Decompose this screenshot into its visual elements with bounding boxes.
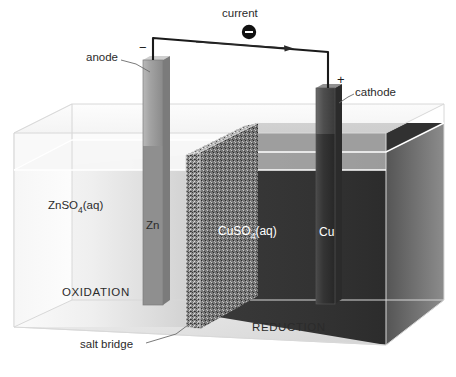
salt-bridge-front-face	[186, 152, 200, 329]
reduction-label: REDUCTION	[252, 321, 326, 333]
current-arrow-head	[284, 45, 294, 51]
zn-solution-state: (aq)	[83, 199, 104, 211]
copper-electrode-above	[316, 88, 335, 134]
copper-electrode: Cu	[316, 84, 342, 304]
tank-glass-rim-top	[14, 104, 444, 133]
electron-symbol-minus	[245, 31, 253, 33]
cathode-sign: +	[337, 72, 345, 87]
copper-electrode-submerged	[316, 134, 335, 304]
anode-label: anode	[86, 51, 118, 63]
current-indicator: current	[196, 7, 294, 52]
current-arrow-line	[196, 42, 288, 48]
anode-sign: −	[139, 40, 147, 55]
galvanic-cell-figure: Zn Cu ZnSO4(aq) CuSO4(aq) OXIDATION REDU…	[0, 0, 456, 377]
salt-bridge-label: salt bridge	[80, 338, 133, 350]
copper-electrode-label: Cu	[319, 225, 334, 239]
current-label: current	[222, 7, 259, 19]
cell-diagram-canvas: Zn Cu ZnSO4(aq) CuSO4(aq) OXIDATION REDU…	[0, 0, 456, 377]
oxidation-label: OXIDATION	[62, 286, 130, 298]
cu-solution-state: (aq)	[255, 224, 276, 238]
cu-solution-formula: CuSO	[218, 224, 251, 238]
cathode-label: cathode	[355, 86, 396, 98]
zinc-electrode-above	[143, 60, 163, 146]
zinc-electrode: Zn	[143, 56, 170, 305]
circuit-wire	[153, 38, 328, 88]
zn-solution-formula: ZnSO	[48, 199, 78, 211]
zinc-electrode-side	[163, 56, 170, 305]
cathode-callout: cathode	[339, 86, 396, 103]
wire-path	[153, 38, 328, 88]
copper-electrode-side	[335, 84, 342, 304]
zinc-electrode-label: Zn	[146, 219, 159, 231]
